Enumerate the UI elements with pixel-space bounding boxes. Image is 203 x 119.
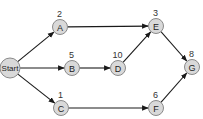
node-label: Start <box>2 64 20 73</box>
node-b: B5 <box>65 50 80 76</box>
nodes-layer: StartA2B5C1D10E3F6G8 <box>0 8 200 116</box>
node-label: A <box>57 23 63 33</box>
node-e: E3 <box>149 8 164 34</box>
node-weight-label: 6 <box>153 90 158 100</box>
edges-layer <box>18 26 187 108</box>
node-weight-label: 8 <box>189 49 194 59</box>
node-g: G8 <box>185 49 200 75</box>
node-weight-label: 2 <box>57 9 62 19</box>
node-weight-label: 3 <box>153 8 158 18</box>
node-c: C1 <box>54 90 69 116</box>
edge-f-to-g <box>161 73 187 102</box>
edge-a-to-e <box>67 26 148 27</box>
node-weight-label: 5 <box>69 50 74 60</box>
node-label: D <box>115 64 122 74</box>
edge-start-to-c <box>18 74 55 103</box>
node-label: G <box>188 63 195 73</box>
edge-e-to-g <box>161 32 187 61</box>
node-label: C <box>58 104 65 114</box>
node-label: E <box>153 22 159 32</box>
network-diagram: StartA2B5C1D10E3F6G8 <box>0 0 203 119</box>
node-a: A2 <box>53 9 68 35</box>
node-weight-label: 1 <box>58 90 63 100</box>
node-f: F6 <box>149 90 164 116</box>
node-label: F <box>153 104 159 114</box>
edge-start-to-a <box>18 32 54 62</box>
node-d: D10 <box>111 50 126 76</box>
node-weight-label: 10 <box>112 50 122 60</box>
node-start: Start <box>0 58 20 78</box>
node-label: B <box>69 64 75 74</box>
edge-d-to-e <box>123 32 151 63</box>
